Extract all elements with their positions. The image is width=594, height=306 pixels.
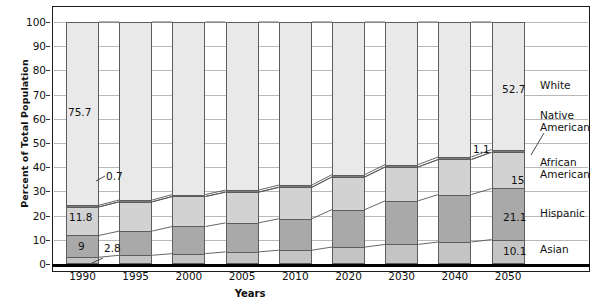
bar-1990 — [66, 22, 99, 264]
x-tick-2000: 2000 — [159, 270, 219, 282]
x-tick-1995: 1995 — [106, 270, 166, 282]
value-label-white-1990: 75.7 — [68, 106, 91, 118]
bar-segment-hispanic-2010 — [279, 219, 312, 250]
x-tick-2010: 2010 — [265, 270, 325, 282]
bar-2000 — [172, 22, 205, 264]
bar-2020 — [332, 22, 365, 264]
legend-item-african-american: African American — [540, 157, 590, 180]
bar-segment-native-american-2030 — [385, 165, 418, 167]
value-label-hispanic-2050: 21.1 — [503, 211, 526, 223]
bar-segment-native-american-2010 — [279, 185, 312, 187]
bar-segment-african-american-2005 — [226, 192, 259, 223]
bar-segment-native-american-2050 — [492, 150, 525, 153]
bar-segment-white-2040 — [438, 22, 471, 157]
bar-2030 — [385, 22, 418, 264]
y-tick-0: 0 — [39, 258, 46, 270]
legend-item-asian: Asian — [540, 244, 569, 256]
value-label-native-1990: 0.7 — [106, 170, 123, 182]
bar-segment-african-american-2040 — [438, 159, 471, 194]
bar-segment-asian-2000 — [172, 254, 205, 264]
bar-2040 — [438, 22, 471, 264]
x-tick-2005: 2005 — [212, 270, 272, 282]
x-axis-title: Years — [0, 288, 500, 299]
y-tick-100: 100 — [26, 16, 46, 28]
y-tick-50: 50 — [33, 137, 46, 149]
bar-segment-asian-2020 — [332, 247, 365, 264]
value-label-hispanic-1990: 9 — [78, 240, 85, 252]
bar-segment-white-2000 — [172, 22, 205, 195]
bar-1995 — [119, 22, 152, 264]
x-tick-2020: 2020 — [319, 270, 379, 282]
bar-segment-african-american-2030 — [385, 167, 418, 201]
x-tick-1990: 1990 — [53, 270, 113, 282]
bar-2010 — [279, 22, 312, 264]
y-tick-40: 40 — [33, 161, 46, 173]
bar-segment-white-2010 — [279, 22, 312, 185]
bar-2050 — [492, 22, 525, 264]
bar-segment-hispanic-2020 — [332, 210, 365, 248]
y-axis-tick-labels: 100 90 80 70 60 50 40 30 20 10 0 — [18, 0, 50, 306]
bar-segment-white-2005 — [226, 22, 259, 190]
bar-segment-african-american-1995 — [119, 202, 152, 231]
bar-segment-african-american-2010 — [279, 187, 312, 218]
x-tick-2050: 2050 — [478, 270, 538, 282]
bar-segment-native-american-2020 — [332, 175, 365, 177]
bar-2005 — [226, 22, 259, 264]
bar-segment-white-1995 — [119, 22, 152, 200]
y-tick-10: 10 — [33, 234, 46, 246]
bar-segment-native-american-2040 — [438, 157, 471, 160]
value-label-african-1990: 11.8 — [69, 211, 92, 223]
value-label-white-2050: 52.7 — [502, 83, 525, 95]
bar-segment-asian-2010 — [279, 250, 312, 264]
legend-item-white: White — [540, 80, 571, 92]
x-tick-2040: 2040 — [425, 270, 485, 282]
bar-segment-hispanic-2030 — [385, 201, 418, 245]
y-tick-70: 70 — [33, 89, 46, 101]
bar-segment-african-american-2000 — [172, 196, 205, 226]
bar-segment-hispanic-2040 — [438, 195, 471, 242]
y-tick-60: 60 — [33, 113, 46, 125]
bar-segment-hispanic-2005 — [226, 223, 259, 252]
value-label-asian-1990: 2.8 — [104, 242, 121, 254]
bar-segment-hispanic-1995 — [119, 231, 152, 255]
bar-segment-white-2020 — [332, 22, 365, 175]
bar-segment-native-american-1995 — [119, 200, 152, 202]
value-label-african-2050: 15 — [511, 174, 524, 186]
bar-segment-asian-1990 — [66, 257, 99, 264]
value-label-asian-2050: 10.1 — [503, 245, 526, 257]
bar-segment-african-american-2020 — [332, 177, 365, 210]
bar-segment-asian-2030 — [385, 244, 418, 264]
bar-segment-native-american-1990 — [66, 205, 99, 207]
bar-segment-white-2030 — [385, 22, 418, 165]
bar-segment-asian-2040 — [438, 242, 471, 264]
x-axis-baseline — [52, 264, 590, 267]
y-tick-90: 90 — [33, 40, 46, 52]
bar-segment-asian-1995 — [119, 255, 152, 264]
stacked-bar-chart: Percent of Total Population 100 90 80 70… — [0, 0, 594, 306]
y-tick-20: 20 — [33, 210, 46, 222]
bar-segment-asian-2005 — [226, 252, 259, 264]
legend-item-native-american: Native American — [540, 110, 590, 133]
y-tick-80: 80 — [33, 64, 46, 76]
x-tick-2030: 2030 — [372, 270, 432, 282]
bar-segment-native-american-2000 — [172, 195, 205, 197]
y-tick-30: 30 — [33, 185, 46, 197]
legend-item-hispanic: Hispanic — [540, 208, 585, 220]
bar-segment-native-american-2005 — [226, 190, 259, 192]
bar-segment-hispanic-2000 — [172, 226, 205, 253]
value-label-native-2050: 1.1 — [473, 143, 490, 155]
